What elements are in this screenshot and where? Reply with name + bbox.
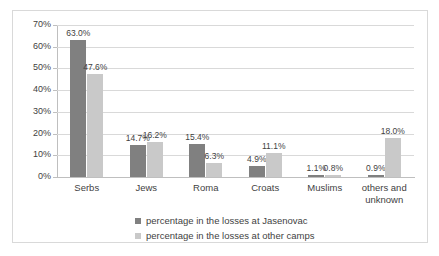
bar-value-label: 16.2% xyxy=(140,131,170,140)
bar[interactable] xyxy=(87,74,103,177)
y-axis-tick-label: 70% xyxy=(17,20,51,29)
bar-group: 15.4%6.3% xyxy=(176,25,236,177)
bar[interactable] xyxy=(147,142,163,177)
bar[interactable] xyxy=(70,40,86,177)
x-axis-category-label: Croats xyxy=(236,182,296,194)
bar-value-label: 18.0% xyxy=(378,127,408,136)
bar-value-label: 11.1% xyxy=(259,142,289,151)
bar-value-label: 63.0% xyxy=(63,29,93,38)
y-axis-tick-label: 50% xyxy=(17,63,51,72)
legend-swatch-icon xyxy=(135,233,141,239)
bar-group: 4.9%11.1% xyxy=(236,25,296,177)
y-axis-tick xyxy=(53,155,57,156)
y-axis-tick-label: 10% xyxy=(17,150,51,159)
y-axis-tick xyxy=(53,47,57,48)
chart-container: 0%10%20%30%40%50%60%70% 63.0%47.6%14.7%1… xyxy=(12,10,428,243)
bar[interactable] xyxy=(266,153,282,177)
legend-item[interactable]: percentage in the losses at Jasenovac xyxy=(13,213,429,228)
bar-value-label: 47.6% xyxy=(80,63,110,72)
x-axis-category-label: others and unknown xyxy=(355,182,415,206)
bar[interactable] xyxy=(206,163,222,177)
y-axis-tick-label: 30% xyxy=(17,107,51,116)
y-axis-tick xyxy=(53,25,57,26)
y-axis-tick-label: 40% xyxy=(17,85,51,94)
y-axis-tick xyxy=(53,134,57,135)
bar[interactable] xyxy=(308,175,324,177)
bar[interactable] xyxy=(385,138,401,177)
chart-legend: percentage in the losses at Jasenovacper… xyxy=(13,213,429,243)
bar[interactable] xyxy=(325,175,341,177)
bar-group: 0.9%18.0% xyxy=(355,25,415,177)
bar[interactable] xyxy=(130,145,146,177)
legend-label: percentage in the losses at Jasenovac xyxy=(146,215,308,226)
x-axis-line xyxy=(57,177,415,178)
x-axis-category-labels: SerbsJewsRomaCroatsMuslimsothers and unk… xyxy=(57,182,414,214)
y-axis-tick-label: 60% xyxy=(17,42,51,51)
legend-item[interactable]: percentage in the losses at other camps xyxy=(13,228,429,243)
bar[interactable] xyxy=(368,175,384,177)
legend-label: percentage in the losses at other camps xyxy=(146,230,314,241)
y-axis-tick-label: 20% xyxy=(17,129,51,138)
y-axis-tick xyxy=(53,177,57,178)
y-axis-tick xyxy=(53,112,57,113)
bar-value-label: 6.3% xyxy=(199,152,229,161)
bar-group: 14.7%16.2% xyxy=(117,25,177,177)
legend-swatch-icon xyxy=(135,218,141,224)
y-axis-tick xyxy=(53,90,57,91)
plot-area: 63.0%47.6%14.7%16.2%15.4%6.3%4.9%11.1%1.… xyxy=(57,25,414,177)
y-axis: 0%10%20%30%40%50%60%70% xyxy=(13,11,51,244)
y-axis-tick-label: 0% xyxy=(17,172,51,181)
bar-value-label: 0.8% xyxy=(318,164,348,173)
x-axis-category-label: Roma xyxy=(176,182,236,194)
x-axis-category-label: Serbs xyxy=(57,182,117,194)
bar[interactable] xyxy=(249,166,265,177)
bar-group: 63.0%47.6% xyxy=(57,25,117,177)
x-axis-category-label: Jews xyxy=(117,182,177,194)
y-axis-tick xyxy=(53,68,57,69)
x-axis-category-label: Muslims xyxy=(295,182,355,194)
bar-group: 1.1%0.8% xyxy=(295,25,355,177)
bar-value-label: 15.4% xyxy=(182,133,212,142)
